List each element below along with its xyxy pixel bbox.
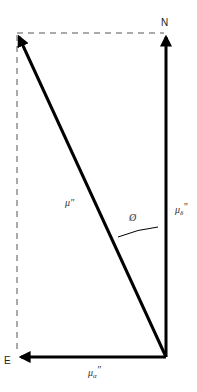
total-motion-vector-arrow (19, 37, 166, 357)
proper-motion-diagram: N E μ" Ø μδ" μα" (0, 0, 197, 392)
north-label: N (161, 17, 168, 28)
east-label: E (4, 355, 11, 366)
total-motion-label: μ" (64, 197, 75, 208)
dec-component-label: μδ" (174, 201, 188, 217)
dec-label-suffix: " (183, 201, 188, 212)
ra-component-label: μα" (87, 364, 102, 380)
angle-label: Ø (128, 212, 137, 223)
ra-label-suffix: " (97, 364, 102, 375)
position-angle-arc (118, 227, 158, 237)
